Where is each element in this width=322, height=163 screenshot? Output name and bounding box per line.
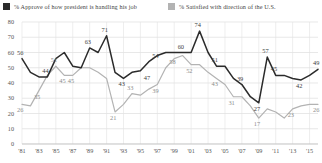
data-point-label: 45 [271, 65, 277, 72]
data-point-label: 57 [262, 47, 268, 54]
data-point-label: 74 [195, 21, 201, 28]
legend-swatch-satisfied-icon [168, 3, 175, 10]
data-point-label: 71 [102, 26, 108, 33]
data-point-label: 51 [51, 56, 57, 63]
data-point-label: 26 [17, 106, 23, 113]
y-axis-tick-label: 50 [2, 64, 14, 71]
x-axis-tick-label: '97 [148, 147, 166, 154]
data-point-label: 35 [34, 93, 40, 100]
x-axis-tick-label: '03 [199, 147, 217, 154]
legend-label-satisfied: % Satisfied with direction of the U.S. [179, 3, 276, 10]
data-point-label: 42 [296, 82, 302, 89]
data-point-label: 33 [127, 84, 133, 91]
y-axis-tick-label: 60 [2, 49, 14, 56]
chart-plot-area: 01020304050607080'81'83'85'87'89'91'93'9… [0, 16, 322, 163]
data-point-label: 45 [68, 77, 74, 84]
chart-legend: % Approve of how president is handling h… [0, 0, 322, 16]
x-axis-tick-label: '99 [165, 147, 183, 154]
chart-root: % Approve of how president is handling h… [0, 0, 322, 163]
y-axis-tick-label: 10 [2, 125, 14, 132]
data-point-label: 27 [254, 105, 260, 112]
x-axis-tick-label: '83 [30, 147, 48, 154]
data-point-label: 39 [237, 75, 243, 82]
y-axis-tick-label: 30 [2, 94, 14, 101]
data-point-label: 60 [178, 43, 184, 50]
data-point-label: 21 [110, 114, 116, 121]
data-point-label: 44 [42, 67, 48, 74]
data-point-label: 54 [152, 52, 158, 59]
data-point-label: 23 [288, 111, 294, 118]
data-point-label: 63 [85, 38, 91, 45]
data-point-label: 52 [186, 67, 192, 74]
data-point-label: 49 [313, 59, 319, 66]
x-axis-tick-label: '87 [64, 147, 82, 154]
x-axis-tick-label: '01 [182, 147, 200, 154]
legend-label-approve: % Approve of how president is handling h… [14, 3, 137, 10]
x-axis-tick-label: '11 [267, 147, 285, 154]
data-point-label: 31 [228, 99, 234, 106]
x-axis-tick-label: '89 [81, 147, 99, 154]
x-axis-tick-label: '81 [13, 147, 31, 154]
y-axis-tick-label: 20 [2, 110, 14, 117]
data-point-label: 17 [254, 120, 260, 127]
x-axis-tick-label: '93 [114, 147, 132, 154]
x-axis-tick-label: '91 [98, 147, 116, 154]
data-point-label: 56 [17, 49, 23, 56]
data-point-label: 47 [144, 74, 150, 81]
y-axis-tick-label: 70 [2, 33, 14, 40]
x-axis-tick-label: '07 [233, 147, 251, 154]
y-axis-tick-label: 80 [2, 18, 14, 25]
y-axis-tick-label: 0 [2, 140, 14, 147]
x-axis-tick-label: '13 [284, 147, 302, 154]
legend-item-satisfied: % Satisfied with direction of the U.S. [168, 3, 276, 10]
data-point-label: 26 [313, 106, 319, 113]
data-point-label: 58 [169, 58, 175, 65]
legend-item-approve: % Approve of how president is handling h… [3, 3, 137, 10]
data-point-label: 39 [152, 87, 158, 94]
chart-svg [0, 16, 322, 163]
data-point-label: 43 [212, 80, 218, 87]
data-point-label: 51 [212, 56, 218, 63]
x-axis-tick-label: '85 [47, 147, 65, 154]
data-point-label: 43 [118, 80, 124, 87]
x-axis-tick-label: '95 [131, 147, 149, 154]
x-axis-tick-label: '05 [216, 147, 234, 154]
data-point-label: 45 [59, 77, 65, 84]
legend-swatch-approve-icon [3, 3, 10, 10]
x-axis-tick-label: '09 [250, 147, 268, 154]
y-axis-tick-label: 40 [2, 79, 14, 86]
x-axis-tick-label: '15 [301, 147, 319, 154]
